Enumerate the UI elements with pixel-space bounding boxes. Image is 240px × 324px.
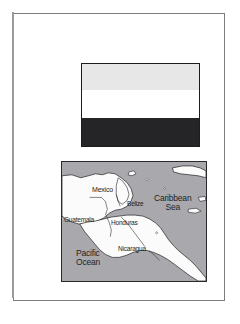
flag-band-bottom — [82, 118, 199, 146]
map-landmass-graphic — [62, 162, 206, 281]
central-america-map: Mexico Belize Guatemala Honduras Nicarag… — [61, 161, 207, 282]
page-frame: Mexico Belize Guatemala Honduras Nicarag… — [13, 13, 225, 301]
flag-band-top — [82, 64, 199, 90]
flag-of-honduras — [81, 63, 200, 147]
page: Mexico Belize Guatemala Honduras Nicarag… — [0, 0, 240, 324]
flag-band-middle — [82, 90, 199, 118]
